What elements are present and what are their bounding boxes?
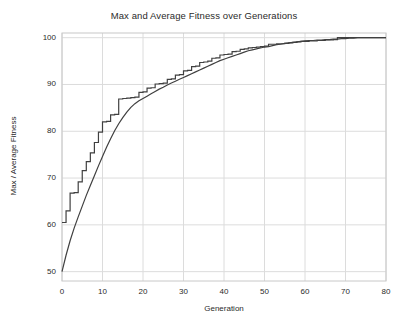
plot-area [0, 0, 408, 325]
x-tick-label: 70 [333, 287, 359, 296]
x-tick-label: 10 [90, 287, 116, 296]
y-tick-label: 100 [30, 33, 56, 42]
y-tick-label: 70 [30, 173, 56, 182]
x-tick-label: 30 [171, 287, 197, 296]
x-tick-label: 80 [373, 287, 399, 296]
x-tick-label: 20 [130, 287, 156, 296]
y-tick-label: 80 [30, 126, 56, 135]
x-tick-label: 60 [292, 287, 318, 296]
x-tick-label: 50 [252, 287, 278, 296]
x-tick-label: 40 [211, 287, 237, 296]
y-tick-label: 50 [30, 267, 56, 276]
chart-figure: Max and Average Fitness over Generations… [0, 0, 408, 325]
y-tick-label: 90 [30, 79, 56, 88]
y-tick-label: 60 [30, 220, 56, 229]
x-tick-label: 0 [49, 287, 75, 296]
gridlines [62, 33, 386, 281]
